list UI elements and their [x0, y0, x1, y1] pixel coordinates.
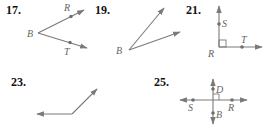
right-angle-mark — [219, 40, 226, 47]
point-s — [217, 22, 221, 26]
label-b: B — [216, 109, 222, 120]
figure-23: 23. — [11, 75, 97, 114]
label-b: B — [27, 28, 33, 39]
point-r — [69, 15, 72, 18]
label-b: B — [116, 45, 122, 56]
figure-19-number: 19. — [95, 3, 110, 17]
exercise-figures: 17. R B T 19. B 21. S T R 23. 25. — [0, 0, 273, 129]
point-d — [211, 87, 215, 91]
ray-bt — [38, 33, 87, 48]
figure-25-number: 25. — [154, 75, 169, 89]
ray-up-right — [72, 89, 97, 114]
label-d: D — [215, 84, 224, 95]
figure-17-number: 17. — [6, 3, 21, 17]
point-t — [240, 45, 244, 49]
point-t — [68, 41, 71, 44]
figure-17: 17. R B T — [6, 2, 87, 57]
ray-br — [38, 10, 84, 33]
figure-21-number: 21. — [186, 3, 201, 17]
label-r: R — [207, 48, 214, 59]
label-t: T — [241, 34, 248, 45]
figure-25: 25. D S R B — [154, 75, 247, 124]
figure-19: 19. B — [95, 3, 180, 56]
figure-21: 21. S T R — [186, 3, 262, 59]
label-s: S — [222, 18, 227, 29]
label-r: R — [227, 102, 234, 113]
point-b — [211, 111, 215, 115]
label-s: S — [188, 102, 193, 113]
figure-23-number: 23. — [11, 75, 26, 89]
label-r: R — [63, 2, 70, 13]
label-t: T — [64, 46, 71, 57]
